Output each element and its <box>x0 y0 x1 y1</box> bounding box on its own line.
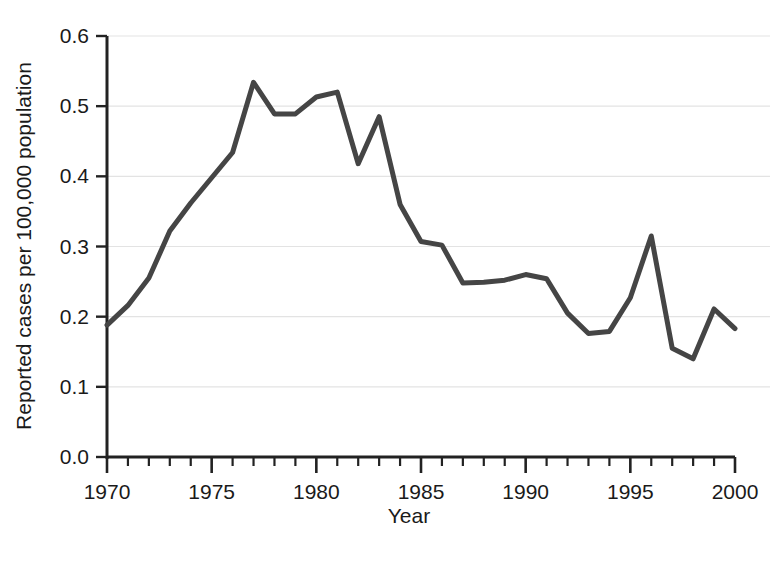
chart-page: 0.00.10.20.30.40.50.6 197019751980198519… <box>0 0 772 564</box>
line-chart: 0.00.10.20.30.40.50.6 197019751980198519… <box>0 0 772 564</box>
y-tick-label: 0.4 <box>60 164 90 187</box>
y-axis <box>96 36 107 459</box>
y-axis-title: Reported cases per 100,000 population <box>12 62 35 430</box>
x-tick-label: 1980 <box>293 480 340 503</box>
y-tick-label: 0.3 <box>60 235 89 258</box>
y-tick-label: 0.6 <box>60 24 89 47</box>
x-tick-label: 1970 <box>84 480 131 503</box>
x-tick-label: 1990 <box>502 480 549 503</box>
y-tick-label: 0.1 <box>60 375 89 398</box>
y-tick-label: 0.2 <box>60 305 89 328</box>
x-tick-label: 1975 <box>188 480 235 503</box>
data-series-line <box>107 82 735 358</box>
y-tick-label: 0.5 <box>60 94 89 117</box>
x-tick-label: 2000 <box>712 480 759 503</box>
y-axis-tick-labels: 0.00.10.20.30.40.50.6 <box>60 24 90 468</box>
x-axis-title: Year <box>388 504 430 527</box>
x-axis-tick-labels: 1970197519801985199019952000 <box>84 480 759 503</box>
x-axis <box>106 457 735 473</box>
x-tick-label: 1985 <box>398 480 445 503</box>
x-tick-label: 1995 <box>607 480 654 503</box>
y-tick-label: 0.0 <box>60 445 89 468</box>
